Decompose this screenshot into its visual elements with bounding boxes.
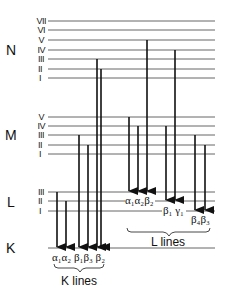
n-i-label: I (39, 73, 41, 83)
shell-label-n: N (6, 42, 16, 58)
l-i-label: I (39, 206, 41, 216)
l-ii-label: II (38, 196, 42, 206)
k-lines-brace (54, 264, 104, 272)
l-greek-c: β₄β₃ (191, 213, 210, 225)
m-i-label: I (39, 149, 41, 159)
xray-energy-level-diagram: N M L K VII VI V IV III II I V IV III II… (0, 0, 228, 297)
n-vi-label: VI (37, 25, 45, 35)
l-greek-b: β₁ γ₁ (163, 204, 184, 216)
shell-label-m: M (5, 127, 17, 143)
n-v-label: V (38, 35, 44, 45)
shell-label-l: L (7, 194, 15, 210)
n-shell-levels: VII VI V IV III II I (36, 16, 215, 83)
k-line-arrows (57, 59, 101, 247)
l-greek-a: α₁α₂β₂ (125, 194, 154, 206)
k-greek: α₁α₂ β₁β₃ β₂ (52, 251, 105, 263)
m-shell-levels: V IV III II I (37, 112, 215, 159)
shell-label-k: K (6, 240, 16, 256)
n-iii-label: III (38, 54, 44, 64)
l-line-arrows (129, 40, 205, 210)
m-iii-label: III (38, 130, 44, 140)
l-lines-caption: L lines (151, 235, 185, 249)
k-lines-caption: K lines (61, 274, 97, 288)
